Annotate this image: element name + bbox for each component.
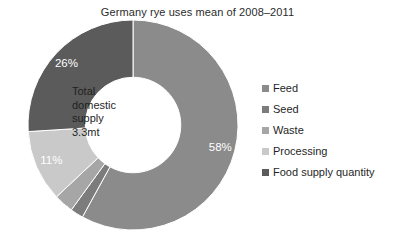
chart-legend: FeedSeedWasteProcessingFood supply quant… [262,78,394,183]
legend-item[interactable]: Feed [262,78,394,99]
donut-center-annotation: Total domestic supply 3.3mt [72,85,150,139]
legend-item-label: Waste [273,125,304,136]
legend-swatch-icon [262,106,269,113]
legend-item-label: Seed [273,104,299,115]
slice-value-label: 58% [209,141,232,153]
legend-swatch-icon [262,148,269,155]
slice-value-label: 26% [55,57,78,69]
slice-value-label: 2% [75,219,92,231]
center-line-1: Total [72,85,150,99]
center-line-3: supply [72,112,150,126]
slice-value-label: 11% [40,154,62,166]
chart-title: Germany rye uses mean of 2008–2011 [0,6,395,18]
legend-item[interactable]: Seed [262,99,394,120]
center-line-2: domestic [72,99,150,113]
legend-swatch-icon [262,85,269,92]
slice-value-label: 3% [53,204,70,216]
legend-item-label: Processing [273,146,327,157]
legend-swatch-icon [262,169,269,176]
legend-item-label: Food supply quantity [273,167,375,178]
legend-item[interactable]: Waste [262,120,394,141]
legend-swatch-icon [262,127,269,134]
legend-item-label: Feed [273,83,298,94]
center-line-4: 3.3mt [72,126,150,140]
chart-figure: Germany rye uses mean of 2008–2011 58%2%… [0,0,395,236]
legend-item[interactable]: Processing [262,141,394,162]
legend-item[interactable]: Food supply quantity [262,162,394,183]
